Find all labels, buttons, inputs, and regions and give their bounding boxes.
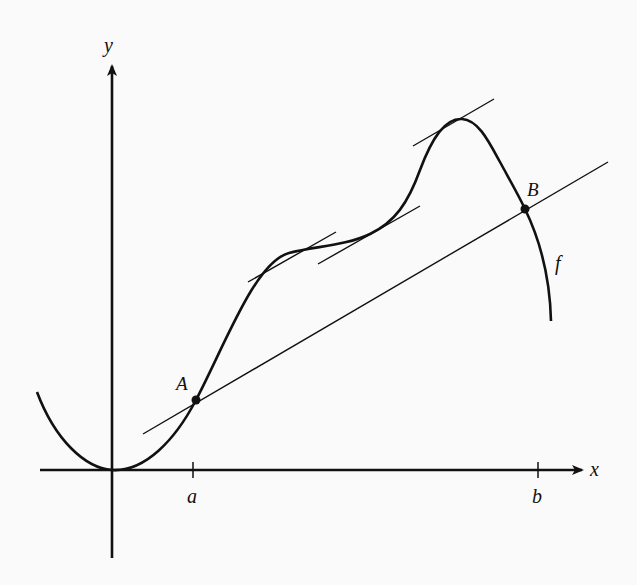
mean-value-theorem-diagram: x y a b A B f xyxy=(0,0,637,585)
point-b xyxy=(521,205,530,214)
tick-label-a: a xyxy=(187,485,197,507)
secant-line-ab xyxy=(143,162,608,434)
y-axis-label: y xyxy=(102,34,113,57)
tick-label-b: b xyxy=(532,485,542,507)
point-b-label: B xyxy=(527,179,539,200)
curve-label-f: f xyxy=(555,252,563,275)
tangent-line-3 xyxy=(413,99,494,146)
point-a-label: A xyxy=(174,373,188,394)
x-axis-label: x xyxy=(589,458,599,480)
point-a xyxy=(192,396,201,405)
function-curve-f xyxy=(37,119,551,470)
